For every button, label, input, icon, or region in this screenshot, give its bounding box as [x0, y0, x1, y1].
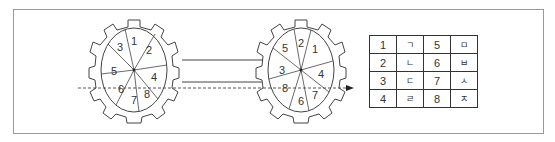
table-row: 2 ㄴ 6 ㅂ: [370, 54, 478, 72]
table-cell: 8: [424, 90, 451, 108]
right-gear-sector: 4: [318, 68, 324, 80]
right-gear-sector: 1: [312, 43, 318, 55]
table-cell: 2: [370, 54, 397, 72]
right-gear-sector: 7: [312, 89, 318, 101]
table-cell: 1: [370, 36, 397, 54]
cipher-table: 1 ㄱ 5 ㅁ 2 ㄴ 6 ㅂ 3 ㄷ 7 ㅅ 4 ㄹ 8 ㅈ: [369, 35, 478, 108]
left-gear-sector: 1: [131, 35, 137, 47]
left-gear: 1 2 4 8 7 6 5 3: [89, 20, 179, 123]
table-cell: ㄴ: [397, 54, 424, 72]
table-row: 4 ㄹ 8 ㅈ: [370, 90, 478, 108]
table-cell: ㅁ: [451, 36, 478, 54]
right-gear-sector: 2: [298, 37, 304, 49]
left-gear-sector: 5: [111, 65, 117, 77]
table-row: 1 ㄱ 5 ㅁ: [370, 36, 478, 54]
table-row: 3 ㄷ 7 ㅅ: [370, 72, 478, 90]
table-cell: 6: [424, 54, 451, 72]
left-gear-sector: 6: [118, 83, 124, 95]
table-cell: ㅈ: [451, 90, 478, 108]
left-gear-sector: 3: [117, 41, 123, 53]
right-gear: 2 1 4 7 6 8 3 5: [256, 20, 346, 123]
right-gear-sector: 5: [282, 42, 288, 54]
table-cell: ㄷ: [397, 72, 424, 90]
table-cell: ㄹ: [397, 90, 424, 108]
left-gear-sector: 7: [131, 94, 137, 106]
left-gear-sector: 2: [146, 44, 152, 56]
table-cell: ㅅ: [451, 72, 478, 90]
table-cell: ㄱ: [397, 36, 424, 54]
left-gear-sector: 4: [151, 71, 157, 83]
table-cell: 4: [370, 90, 397, 108]
table-cell: 7: [424, 72, 451, 90]
table-cell: ㅂ: [451, 54, 478, 72]
table-cell: 3: [370, 72, 397, 90]
right-gear-sector: 6: [298, 95, 304, 107]
left-gear-sector: 8: [144, 88, 150, 100]
table-cell: 5: [424, 36, 451, 54]
arrow-head-icon: [346, 85, 354, 91]
right-gear-sector: 3: [279, 64, 285, 76]
